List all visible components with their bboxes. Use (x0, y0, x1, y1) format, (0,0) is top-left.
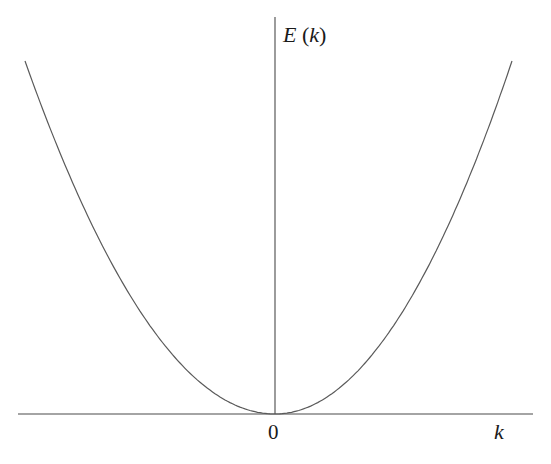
origin-label: 0 (268, 420, 279, 445)
y-axis-label-symbol: E (283, 22, 296, 47)
y-axis-label: E (k) (283, 22, 326, 48)
y-axis-label-arg: k (309, 22, 319, 47)
figure-caption (160, 455, 400, 464)
x-axis-label: k (494, 419, 504, 445)
energy-curve (25, 61, 512, 414)
y-axis-label-close-paren: ) (319, 22, 326, 47)
chart-plot-area (0, 0, 551, 464)
